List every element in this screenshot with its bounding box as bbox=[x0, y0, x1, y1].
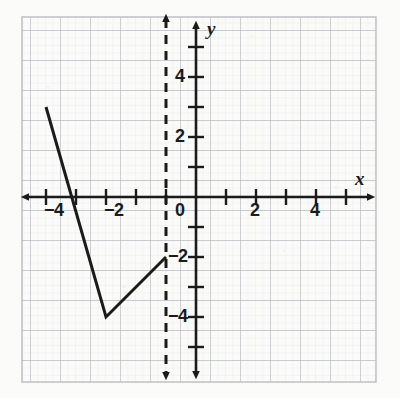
x-tick-label-neg4: −4 bbox=[44, 200, 64, 221]
y-tick-label-neg4: −4 bbox=[168, 306, 188, 327]
x-tick-label-neg2: −2 bbox=[104, 200, 124, 221]
x-tick-label-2: 2 bbox=[250, 200, 260, 221]
x-axis-label: x bbox=[355, 168, 365, 190]
coordinate-plane-svg bbox=[0, 0, 400, 398]
graph-figure: −4 −2 2 4 0 4 2 −2 −4 x y bbox=[0, 0, 400, 398]
y-tick-label-2: 2 bbox=[175, 126, 185, 147]
y-axis-label: y bbox=[207, 18, 215, 40]
x-tick-label-4: 4 bbox=[310, 200, 320, 221]
y-tick-label-4: 4 bbox=[175, 66, 185, 87]
y-tick-label-neg2: −2 bbox=[168, 246, 188, 267]
origin-label: 0 bbox=[175, 200, 185, 221]
